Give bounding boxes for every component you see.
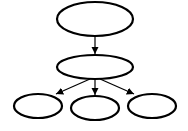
node-child-left [14, 94, 62, 118]
node-child-center [71, 96, 119, 120]
node-root [57, 2, 133, 36]
edge-middle-to-right [100, 79, 134, 94]
node-middle [57, 55, 133, 79]
node-child-right [128, 94, 176, 118]
tree-diagram [0, 0, 188, 131]
edge-middle-to-left [56, 79, 90, 94]
